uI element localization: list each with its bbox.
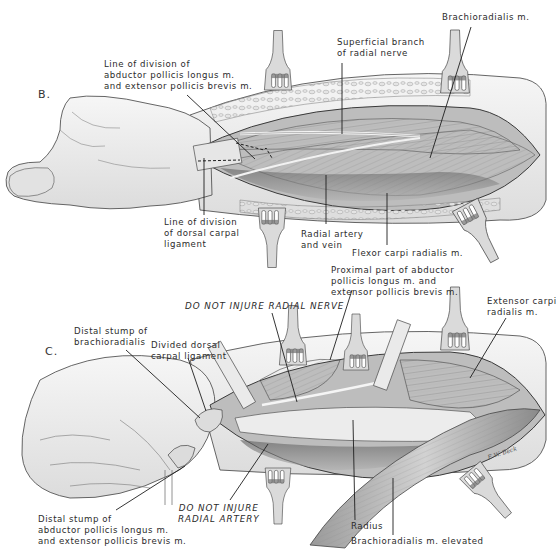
label-radius: Radius (351, 521, 383, 532)
illustration-artwork (0, 0, 557, 559)
label-divided-dorsal-carpal-ligament: Divided dorsal carpal ligament (151, 340, 227, 362)
label-superficial-branch-radial-nerve: Superficial branch of radial nerve (337, 37, 425, 59)
label-proximal-part-apl-epb: Proximal part of abductor pollicis longu… (331, 265, 458, 298)
label-distal-stump-apl-epb: Distal stump of abductor pollicis longus… (38, 514, 186, 547)
label-distal-stump-brachioradialis: Distal stump of brachioradialis (74, 326, 148, 348)
label-brachioradialis-elevated: Brachioradialis m. elevated (351, 536, 484, 547)
label-line-division-dorsal-carpal: Line of division of dorsal carpal ligame… (164, 217, 240, 250)
label-brachioradialis: Brachioradialis m. (442, 12, 529, 23)
panel-c-letter: C. (45, 345, 58, 358)
panel-b-letter: B. (38, 88, 51, 101)
label-extensor-carpi-radialis: Extensor carpi radialis m. (487, 296, 557, 318)
panel-b-artwork (6, 30, 546, 268)
label-do-not-injure-radial-nerve: DO NOT INJURE RADIAL NERVE (185, 301, 344, 312)
label-flexor-carpi-radialis: Flexor carpi radialis m. (352, 248, 463, 259)
label-do-not-injure-radial-artery: DO NOT INJURE RADIAL ARTERY (178, 503, 259, 525)
label-line-division-apl-epb: Line of division of abductor pollicis lo… (104, 59, 252, 92)
